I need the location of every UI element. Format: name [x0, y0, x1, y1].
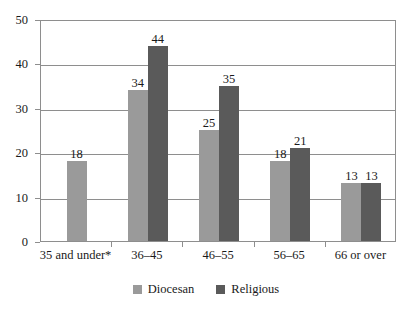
- y-axis: 0 10 20 30 40 50: [0, 20, 34, 242]
- bar-value-label-religious-4: 13: [365, 170, 378, 183]
- y-tick-label-20: 20: [16, 147, 29, 160]
- y-tick-label-0: 0: [22, 236, 28, 249]
- x-tick-mark-4: [325, 242, 326, 247]
- bar-religious-1: [148, 46, 168, 241]
- x-axis-labels: 35 and under*36–4546–5556–6566 or over: [40, 249, 396, 269]
- bar-religious-4: [361, 183, 381, 241]
- x-category-label-3: 56–65: [274, 249, 305, 263]
- chart-legend: Diocesan Religious: [0, 283, 412, 296]
- legend-swatch-icon-diocesan: [133, 285, 142, 294]
- bar-diocesan-4: [341, 183, 361, 241]
- y-tick-label-40: 40: [16, 58, 29, 71]
- plot-area: 183444253518211313: [40, 20, 396, 242]
- y-tick-label-30: 30: [16, 103, 29, 116]
- y-tick-label-10: 10: [16, 191, 29, 204]
- bar-value-label-diocesan-4: 13: [345, 170, 358, 183]
- bar-diocesan-0: [67, 161, 87, 241]
- legend-swatch-icon-religious: [216, 285, 225, 294]
- bar-religious-2: [219, 86, 239, 241]
- bar-diocesan-2: [199, 130, 219, 241]
- legend-label-diocesan: Diocesan: [148, 283, 195, 296]
- x-category-label-0: 35 and under*: [40, 249, 112, 263]
- bar-diocesan-1: [128, 90, 148, 241]
- x-category-label-2: 46–55: [202, 249, 233, 263]
- x-category-label-1: 36–45: [131, 249, 162, 263]
- legend-item-diocesan: Diocesan: [133, 283, 195, 296]
- bar-value-label-diocesan-0: 18: [70, 148, 83, 161]
- bar-religious-3: [290, 148, 310, 241]
- legend-label-religious: Religious: [231, 283, 279, 296]
- bar-value-label-religious-3: 21: [294, 135, 307, 148]
- bar-diocesan-3: [270, 161, 290, 241]
- x-tick-mark-3: [254, 242, 255, 247]
- bar-value-label-diocesan-2: 25: [203, 117, 216, 130]
- gridline-30: [41, 110, 395, 111]
- bar-value-label-diocesan-3: 18: [274, 148, 287, 161]
- legend-item-religious: Religious: [216, 283, 279, 296]
- bar-value-label-religious-1: 44: [152, 33, 165, 46]
- gridline-40: [41, 65, 395, 66]
- y-tick-label-50: 50: [16, 14, 29, 27]
- x-category-label-4: 66 or over: [335, 249, 386, 263]
- bar-chart: 0 10 20 30 40 50 183444253518211313 35 a…: [0, 0, 412, 312]
- x-tick-mark-2: [182, 242, 183, 247]
- x-tick-mark-1: [111, 242, 112, 247]
- bar-value-label-religious-2: 35: [223, 73, 236, 86]
- bar-value-label-diocesan-1: 34: [132, 77, 145, 90]
